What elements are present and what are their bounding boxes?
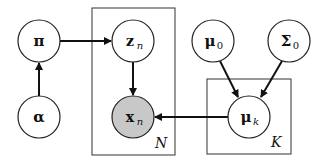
node-z-n: z n <box>112 20 154 62</box>
node-z-n-subscript: n <box>137 40 143 51</box>
node-pi-symbol: π <box>34 32 45 50</box>
node-mu-0-symbol: μ <box>205 32 216 50</box>
graphical-model-diagram: N K π α z n x <box>0 0 322 166</box>
node-mu-0: μ 0 <box>192 20 234 62</box>
node-x-n-symbol: x <box>126 109 135 125</box>
node-mu-k: μ k <box>228 96 270 138</box>
node-sigma-0-subscript: 0 <box>293 40 299 51</box>
plate-n-label: N <box>154 135 168 151</box>
node-mu-0-subscript: 0 <box>217 40 223 51</box>
node-pi: π <box>18 20 60 62</box>
node-alpha-symbol: α <box>33 108 45 126</box>
node-z-n-symbol: z <box>126 33 134 49</box>
node-mu-k-subscript: k <box>253 116 259 127</box>
node-sigma-0-symbol: Σ <box>281 32 292 50</box>
node-alpha: α <box>18 96 60 138</box>
node-x-n-subscript: n <box>137 116 143 127</box>
node-x-n-observed: x n <box>112 96 154 138</box>
node-sigma-0: Σ 0 <box>268 20 310 62</box>
plate-k-label: K <box>270 134 283 150</box>
node-mu-k-symbol: μ <box>241 108 252 126</box>
